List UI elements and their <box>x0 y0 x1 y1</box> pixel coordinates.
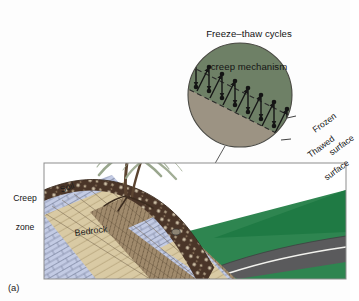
tree-foliage-main <box>95 56 176 176</box>
diagram-title-line2: creep mechanism <box>178 62 320 73</box>
diagram-title: Freeze–thaw cycles creep mechanism <box>178 8 320 94</box>
diagram-title-line1: Freeze–thaw cycles <box>178 29 320 40</box>
creep-zone-line2: zone <box>3 223 47 233</box>
creep-zone-line1: Creep <box>3 194 47 204</box>
thawed-surface-line2: surface <box>323 157 353 183</box>
inset-source-point <box>172 229 180 235</box>
thawed-surface-line1: Thawed <box>306 134 336 160</box>
creep-zone-label: Creep zone <box>3 175 47 252</box>
figure-caption: (a) <box>8 283 19 294</box>
